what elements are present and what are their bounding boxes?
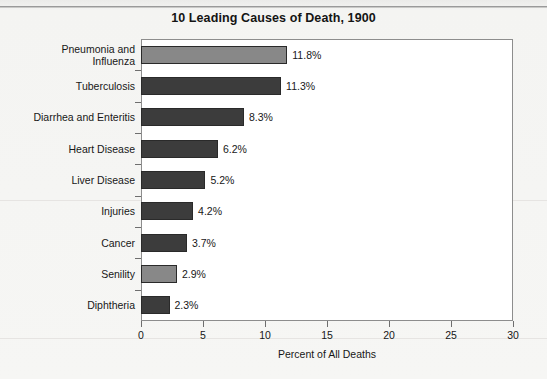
bar[interactable] <box>141 296 170 314</box>
x-axis-tick <box>265 321 266 327</box>
bar[interactable] <box>141 140 218 158</box>
bar-row: 3.7% <box>141 234 513 252</box>
bars-container: 11.8%11.3%8.3%6.2%5.2%4.2%3.7%2.9%2.3% <box>141 39 513 321</box>
bar-value-label: 5.2% <box>210 174 234 186</box>
y-axis-tick <box>135 258 141 259</box>
x-axis-tick <box>389 321 390 327</box>
bar[interactable] <box>141 77 281 95</box>
bar-row: 5.2% <box>141 171 513 189</box>
scan-rule-top-shadow <box>0 7 547 8</box>
x-axis-tick-label: 0 <box>126 329 156 341</box>
bar-row: 11.3% <box>141 77 513 95</box>
y-axis-tick <box>135 227 141 228</box>
x-axis-tick-label: 20 <box>374 329 404 341</box>
category-label: Tuberculosis <box>1 80 135 92</box>
x-axis-tick <box>327 321 328 327</box>
bar-value-label: 3.7% <box>192 237 216 249</box>
category-label: Liver Disease <box>1 174 135 186</box>
bar-value-label: 8.3% <box>249 111 273 123</box>
y-axis-tick <box>135 133 141 134</box>
bar-row: 2.9% <box>141 265 513 283</box>
x-axis-tick <box>141 321 142 327</box>
x-axis-tick-label: 10 <box>250 329 280 341</box>
category-label: Injuries <box>1 205 135 217</box>
category-label: Senility <box>1 268 135 280</box>
x-axis-title: Percent of All Deaths <box>141 348 513 360</box>
bar-value-label: 2.9% <box>182 268 206 280</box>
category-label: Pneumonia and Influenza <box>1 43 135 67</box>
y-axis-tick <box>135 290 141 291</box>
y-axis-tick <box>135 196 141 197</box>
y-axis-tick <box>135 102 141 103</box>
category-label: Diarrhea and Enteritis <box>1 111 135 123</box>
bar-value-label: 4.2% <box>198 205 222 217</box>
bar[interactable] <box>141 234 187 252</box>
x-axis-tick-label: 30 <box>498 329 528 341</box>
bar-value-label: 11.3% <box>286 80 315 92</box>
category-label: Cancer <box>1 237 135 249</box>
bar[interactable] <box>141 171 205 189</box>
x-axis-tick-label: 25 <box>436 329 466 341</box>
bar-value-label: 2.3% <box>175 299 199 311</box>
bar[interactable] <box>141 265 177 283</box>
bar-row: 8.3% <box>141 108 513 126</box>
y-axis-tick <box>135 164 141 165</box>
x-axis-tick <box>513 321 514 327</box>
bar-row: 4.2% <box>141 202 513 220</box>
category-label: Heart Disease <box>1 143 135 155</box>
bar-value-label: 6.2% <box>223 143 247 155</box>
bar-row: 2.3% <box>141 296 513 314</box>
bar-row: 11.8% <box>141 46 513 64</box>
bar[interactable] <box>141 108 244 126</box>
category-label: Diphtheria <box>1 299 135 311</box>
chart-title: 10 Leading Causes of Death, 1900 <box>0 11 547 25</box>
x-axis-tick-label: 15 <box>312 329 342 341</box>
bar[interactable] <box>141 202 193 220</box>
x-axis-tick-label: 5 <box>188 329 218 341</box>
bar-row: 6.2% <box>141 140 513 158</box>
bar[interactable] <box>141 46 287 64</box>
category-axis-labels: Pneumonia and InfluenzaTuberculosisDiarr… <box>0 39 135 321</box>
x-axis-tick <box>451 321 452 327</box>
page-background: 10 Leading Causes of Death, 1900 Pneumon… <box>0 0 547 379</box>
y-axis-tick <box>135 70 141 71</box>
bar-value-label: 11.8% <box>292 49 321 61</box>
x-axis-tick <box>203 321 204 327</box>
